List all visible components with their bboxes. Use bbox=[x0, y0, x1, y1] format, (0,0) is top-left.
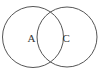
set-c-label: C bbox=[63, 32, 70, 44]
set-a-label: A bbox=[28, 32, 36, 44]
venn-diagram: A C bbox=[0, 0, 103, 72]
